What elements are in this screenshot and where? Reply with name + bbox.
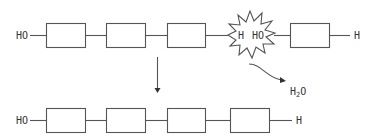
bottom-monomer-1 [47, 109, 86, 133]
water-arrowhead-icon [280, 77, 286, 83]
top-monomer-2 [107, 24, 146, 48]
reaction-site-ho-label: HO [252, 30, 264, 41]
top-monomer-4 [291, 24, 330, 48]
bottom-monomer-3 [168, 109, 206, 133]
bottom-right-terminal-label: H [296, 115, 302, 126]
top-monomer-1 [47, 24, 86, 48]
water-release-arrow [249, 64, 282, 80]
top-right-terminal-label: H [354, 30, 360, 41]
bottom-monomer-2 [107, 109, 146, 133]
top-left-terminal-label: HO [16, 30, 28, 41]
reaction-arrowhead-icon [155, 88, 161, 93]
water-label: H2O [290, 86, 306, 99]
bottom-left-terminal-label: HO [16, 115, 28, 126]
reaction-site-h-label: H [238, 30, 244, 41]
condensation-diagram: HO H H HO H2O HO H [0, 0, 375, 139]
top-monomer-3 [168, 24, 206, 48]
bottom-monomer-4 [231, 109, 270, 133]
